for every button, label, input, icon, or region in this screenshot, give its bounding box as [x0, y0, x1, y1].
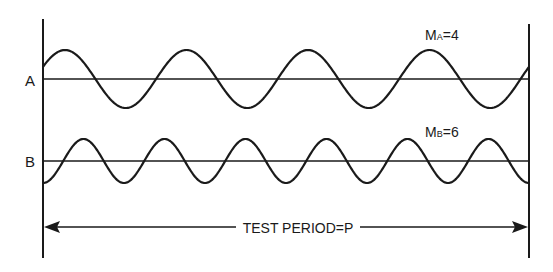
modulation-label-b: MB=6 [425, 125, 459, 139]
modulation-subscript: B [437, 129, 443, 139]
modulation-symbol: M [425, 124, 437, 140]
modulation-symbol: M [425, 27, 437, 43]
trace-label-a: A [25, 73, 35, 88]
modulation-value: 4 [451, 27, 459, 43]
modulation-diagram: A B MA=4 MB=6 TEST PERIOD=P [0, 0, 553, 272]
equals-sign: = [443, 27, 451, 43]
equals-sign: = [443, 124, 451, 140]
modulation-value: 6 [451, 124, 459, 140]
trace-label-b: B [25, 154, 35, 169]
modulation-subscript: A [437, 32, 443, 42]
test-period-label: TEST PERIOD=P [238, 221, 359, 235]
modulation-label-a: MA=4 [425, 28, 459, 42]
